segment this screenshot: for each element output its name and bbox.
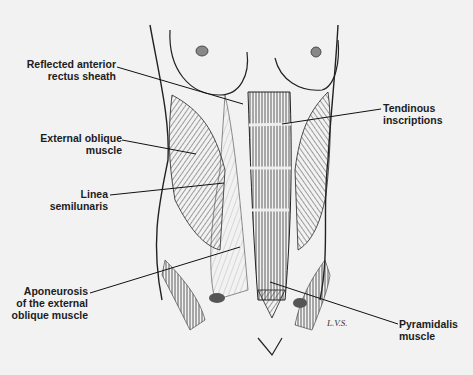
aponeurosis-left: [211, 95, 248, 300]
label-line: muscle: [399, 330, 473, 342]
label-linea-semilunaris: Linea semilunaris: [20, 188, 108, 212]
inguinal-ring-right: [293, 298, 307, 308]
breast-right: [275, 40, 338, 90]
label-line: inscriptions: [383, 114, 473, 126]
artist-signature: L.V.S.: [327, 318, 348, 328]
label-line: Reflected anterior: [20, 58, 116, 70]
torso-outline-left: [150, 25, 168, 300]
inguinal-ring-left: [209, 293, 225, 303]
label-line: Aponeurosis: [0, 285, 88, 297]
nipple-right: [311, 47, 321, 57]
label-line: Linea: [20, 188, 108, 200]
label-line: rectus sheath: [20, 70, 116, 82]
nipple-left: [196, 46, 208, 56]
label-line: of the external: [0, 297, 88, 309]
groin-left: [162, 260, 205, 330]
label-line: oblique muscle: [0, 309, 88, 321]
tendinous-inscription-1: [249, 124, 291, 125]
label-pyramidalis-muscle: Pyramidalis muscle: [399, 318, 473, 342]
breast-left: [170, 30, 248, 95]
label-line: semilunaris: [20, 200, 108, 212]
label-tendinous-inscriptions: Tendinous inscriptions: [383, 102, 473, 126]
groin-right: [295, 260, 330, 330]
label-line: External oblique: [20, 132, 122, 144]
label-line: Pyramidalis: [399, 318, 473, 330]
label-line: Tendinous: [383, 102, 473, 114]
pubic-v: [258, 338, 282, 355]
label-reflected-anterior-rectus-sheath: Reflected anterior rectus sheath: [20, 58, 116, 82]
label-line: muscle: [20, 144, 122, 156]
label-external-oblique-muscle: External oblique muscle: [20, 132, 122, 156]
label-aponeurosis-external-oblique: Aponeurosis of the external oblique musc…: [0, 285, 88, 321]
pyramidalis: [258, 290, 285, 318]
